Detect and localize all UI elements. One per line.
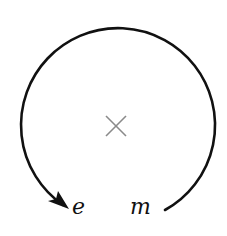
circular-arc [21,28,215,210]
label-m: m [130,196,151,218]
center-cross-icon [106,116,126,136]
circular-arrow-diagram [0,0,227,236]
label-e: e [72,196,85,218]
